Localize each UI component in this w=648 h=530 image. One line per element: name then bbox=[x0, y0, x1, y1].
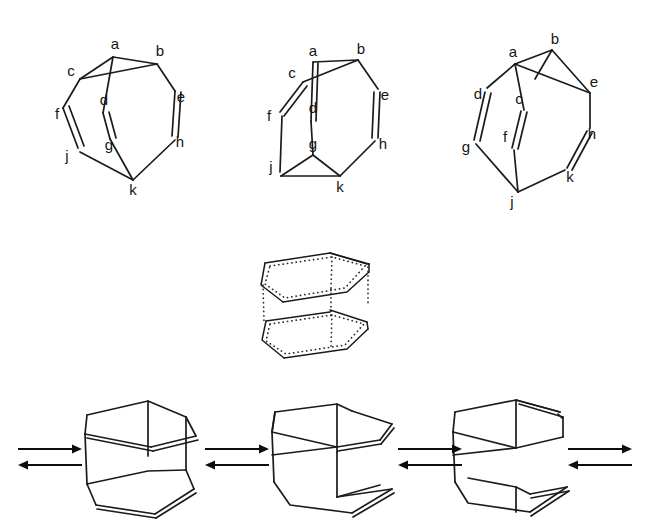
tub3-upper-front-right bbox=[516, 437, 563, 448]
tub1-lower-left-down bbox=[87, 484, 96, 505]
equilibrium-arrow-right bbox=[398, 445, 462, 470]
tub-conformer-right-group bbox=[453, 400, 569, 516]
tub3-left-vertical bbox=[453, 432, 455, 482]
bond-a-b bbox=[113, 57, 157, 64]
tub3-lower-inner-2 bbox=[516, 487, 530, 494]
bond2-b-e bbox=[358, 60, 378, 89]
cage-lower-right-corner bbox=[367, 322, 368, 329]
tub1-upper-front-1 bbox=[85, 434, 151, 447]
tub2-upper-front-back bbox=[272, 432, 337, 447]
cage-upper-dotted-rib bbox=[331, 257, 332, 289]
tub3-top-back bbox=[455, 400, 560, 412]
figure-root: a b c d e f g h j k bbox=[0, 0, 648, 530]
tub1-left-vertical bbox=[85, 434, 87, 484]
atom-label-g: g bbox=[462, 138, 470, 155]
conformer-1-group: a b c d e f g h j k bbox=[55, 35, 185, 198]
cage-upper-back-edge bbox=[265, 253, 369, 264]
cage-upper-left-edge bbox=[261, 263, 283, 302]
bond3-a-e-cross bbox=[515, 64, 590, 93]
atom-label-h: h bbox=[379, 135, 387, 152]
bond3-f-j bbox=[514, 150, 518, 192]
bond2-g-k bbox=[313, 155, 340, 176]
atom-label-h: h bbox=[588, 125, 596, 142]
atom-label-k: k bbox=[336, 178, 344, 195]
tub2-lower-right-2 bbox=[353, 493, 394, 517]
conformer-3-group: a b c d e f g h j k bbox=[462, 30, 598, 210]
tub1-top-right-down bbox=[186, 417, 196, 436]
tub2-top-right bbox=[352, 411, 392, 424]
atom-label-a: a bbox=[509, 43, 518, 60]
atom-label-k: k bbox=[566, 168, 574, 185]
chemical-structure-diagram: a b c d e f g h j k bbox=[0, 0, 648, 530]
tub2-mid-back bbox=[272, 447, 337, 455]
tub3-lower-inner-1 bbox=[468, 478, 516, 487]
atom-label-d: d bbox=[100, 91, 108, 108]
arrow-forward-head bbox=[452, 445, 462, 454]
atom-label-g: g bbox=[309, 135, 317, 152]
bond-h-k bbox=[133, 140, 175, 180]
atom-label-e: e bbox=[177, 88, 185, 105]
bond2-h-k bbox=[340, 141, 375, 176]
tub2-left-vertical bbox=[272, 432, 274, 482]
atom-label-j: j bbox=[64, 147, 68, 164]
atom-label-k: k bbox=[129, 181, 137, 198]
arrow-reverse-head bbox=[568, 461, 578, 470]
bond2-f-j bbox=[280, 116, 282, 172]
atom-label-c: c bbox=[67, 62, 75, 79]
tub3-upper-front-back bbox=[453, 432, 516, 448]
tub2-lower-back bbox=[274, 482, 352, 513]
atom-label-a: a bbox=[309, 42, 318, 59]
bond2-g-j bbox=[281, 155, 313, 176]
tub-conformer-middle-group bbox=[272, 404, 394, 517]
atom-label-d: d bbox=[309, 99, 317, 116]
cage-lower-front-edge bbox=[284, 329, 368, 358]
atom-label-f: f bbox=[267, 107, 272, 124]
atom-label-f: f bbox=[55, 105, 60, 122]
arrow-reverse-head bbox=[18, 461, 28, 470]
arrow-forward-head bbox=[72, 445, 82, 454]
bond-b-e bbox=[157, 64, 175, 91]
conformer-2-group: a b c d e f g h j k bbox=[267, 40, 389, 195]
tub3-lower-back bbox=[455, 482, 530, 512]
atom-label-d: d bbox=[474, 85, 482, 102]
atom-label-c: c bbox=[288, 64, 296, 81]
cage-upper-dotted-face bbox=[265, 257, 365, 298]
tub1-lower-front-right-1 bbox=[155, 489, 194, 514]
atom-label-h: h bbox=[176, 133, 184, 150]
atom-label-j: j bbox=[509, 193, 513, 210]
atom-label-e: e bbox=[590, 73, 598, 90]
atom-label-b: b bbox=[551, 30, 559, 47]
cage-lower-left-edge bbox=[262, 321, 284, 358]
bond2-b-c-cross bbox=[303, 60, 358, 82]
tub2-top-back bbox=[275, 404, 352, 412]
arrow-reverse-head bbox=[398, 461, 408, 470]
bond3-a-b bbox=[515, 50, 552, 64]
tub1-lower-right-down bbox=[186, 470, 194, 489]
arrow-reverse-head bbox=[205, 461, 215, 470]
arrow-forward-head bbox=[622, 445, 632, 454]
bond3-k-j bbox=[518, 170, 565, 192]
bond2-e-h-1 bbox=[372, 92, 374, 138]
tub3-mid-back bbox=[453, 448, 516, 455]
bond-f-j-1 bbox=[63, 108, 78, 148]
cage-lower-back-edge bbox=[266, 312, 330, 321]
atom-label-b: b bbox=[357, 40, 365, 57]
atom-label-f: f bbox=[503, 128, 508, 145]
atom-label-a: a bbox=[111, 35, 120, 52]
bond2-e-h-2 bbox=[378, 92, 380, 138]
tub1-lower-back bbox=[87, 470, 186, 484]
equilibrium-arrow-left bbox=[205, 445, 269, 470]
bond3-g-j bbox=[476, 144, 518, 192]
tub-conformer-left-group bbox=[85, 401, 198, 518]
cage-pillar-left bbox=[263, 285, 264, 322]
tub1-top-back bbox=[87, 401, 186, 417]
cage-lower-dotted-face bbox=[266, 315, 364, 354]
bond-d-g-2 bbox=[109, 112, 116, 138]
cage-lower-dotted-rib bbox=[331, 315, 332, 346]
bond-c-f bbox=[63, 79, 80, 108]
tub1-lower-front-right-2 bbox=[156, 493, 196, 518]
equilibrium-arrow-far-right bbox=[568, 445, 632, 470]
bond-e-h-1 bbox=[172, 91, 175, 136]
bond-f-j-2 bbox=[69, 106, 84, 146]
tub3-top-left-down bbox=[453, 412, 455, 432]
